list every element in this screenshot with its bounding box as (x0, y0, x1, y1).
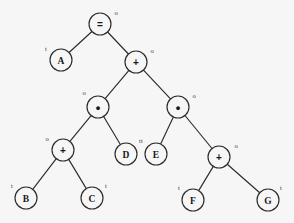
node-label: D (123, 150, 130, 160)
tree-edge (185, 116, 212, 149)
tree-edge (70, 116, 91, 142)
node-tag-o: o (45, 135, 48, 142)
tree-edge (161, 117, 174, 144)
tree-edge (33, 159, 57, 190)
node-tag-o: o (234, 142, 237, 149)
tree-node-D[interactable]: Dt (115, 137, 141, 166)
node-tag-o: o (82, 89, 85, 96)
tree-edge (105, 70, 129, 98)
node-label: A (58, 56, 65, 66)
tree-node-A[interactable]: At (45, 45, 72, 72)
tree-node-plus[interactable]: +o (45, 135, 74, 162)
tree-node-B[interactable]: Bt (11, 182, 37, 210)
tree-node-E[interactable]: Et (141, 137, 167, 166)
node-label: + (216, 152, 222, 163)
tree-edge (199, 166, 214, 190)
node-label: • (176, 100, 181, 115)
node-label: F (190, 196, 196, 206)
node-tag-t: t (280, 184, 282, 191)
node-tag-o: o (114, 9, 117, 16)
tree-node-plus[interactable]: +o (125, 47, 154, 74)
node-label: + (133, 57, 139, 68)
tree-node-equals[interactable]: =o (89, 9, 118, 36)
tree-edge (104, 116, 121, 144)
node-tag-o: o (150, 47, 153, 54)
tree-node-G[interactable]: Gt (257, 184, 282, 212)
tree-node-plus[interactable]: +o (208, 142, 238, 169)
node-layer: =oAt+o•o•o+oDtEt+oBtCtFtGt (11, 9, 282, 212)
node-tag-t: t (141, 137, 143, 144)
node-label: • (96, 100, 101, 115)
node-label: = (97, 19, 103, 30)
node-tag-t: t (45, 45, 47, 52)
tree-edge (144, 70, 171, 99)
tree-edge (69, 31, 92, 52)
node-label: C (89, 194, 96, 204)
node-label: G (264, 196, 272, 206)
node-tag-t: t (11, 182, 13, 189)
tree-edge (69, 159, 87, 188)
diagram-canvas: =oAt+o•o•o+oDtEt+oBtCtFtGt (0, 0, 294, 223)
node-label: E (153, 150, 159, 160)
node-label: + (60, 145, 66, 156)
node-label: B (23, 194, 30, 204)
tree-node-times[interactable]: •o (167, 92, 196, 119)
node-tag-t: t (105, 182, 107, 189)
tree-edge (227, 164, 259, 192)
node-tag-t: t (178, 184, 180, 191)
tree-edge (108, 32, 129, 54)
node-tag-o: o (192, 92, 195, 99)
expression-tree: =oAt+o•o•o+oDtEt+oBtCtFtGt (0, 0, 294, 223)
tree-node-times[interactable]: •o (82, 89, 109, 119)
